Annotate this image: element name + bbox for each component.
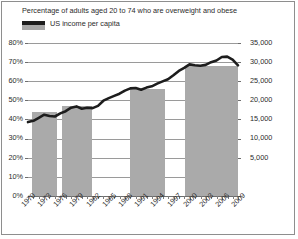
- y-right-tickmark-30000: [238, 62, 241, 63]
- y-right-tick-5000: 5,000: [250, 154, 268, 162]
- y-left-tick-70: 70%: [8, 58, 23, 66]
- income-line-path: [28, 57, 238, 123]
- y-right-tickmark-15000: [238, 119, 241, 120]
- y-left-tick-40: 40%: [8, 115, 23, 123]
- chart-container: Percentage of adults aged 20 to 74 who a…: [0, 0, 298, 239]
- y-left-tick-20: 20%: [8, 154, 23, 162]
- y-left-tick-30: 30%: [8, 134, 23, 142]
- y-right-tickmark-10000: [238, 139, 241, 140]
- y-right-tick-20000: 20,000: [250, 96, 272, 104]
- x-axis-labels: 1970 1973 1976 1979 1982 1985 1988 1991 …: [0, 200, 298, 239]
- legend-label-income-per-capita: US income per capita: [50, 19, 120, 28]
- y-right-tick-15000: 15,000: [250, 115, 272, 123]
- y-right-tickmark-5000: [238, 158, 241, 159]
- y-right-tick-25000: 25,000: [250, 77, 272, 85]
- y-right-tickmark-25000: [238, 81, 241, 82]
- y-right-tickmark-20000: [238, 100, 241, 101]
- y-right-tickmark-35000: [238, 43, 241, 44]
- legend-label-overweight-obese: Percentage of adults aged 20 to 74 who a…: [22, 6, 237, 15]
- plot-area: [28, 43, 238, 196]
- y-right-tick-10000: 10,000: [250, 134, 272, 142]
- y-right-tick-35000: 35,000: [250, 39, 272, 47]
- y-left-tick-50: 50%: [8, 96, 23, 104]
- line-series-income-per-capita: [28, 43, 238, 196]
- y-left-tick-80: 80%: [8, 39, 23, 47]
- y-left-tick-10: 10%: [8, 173, 23, 181]
- y-left-tick-60: 60%: [8, 77, 23, 85]
- y-right-tick-30000: 30,000: [250, 58, 272, 66]
- income-line-svg: [28, 43, 238, 196]
